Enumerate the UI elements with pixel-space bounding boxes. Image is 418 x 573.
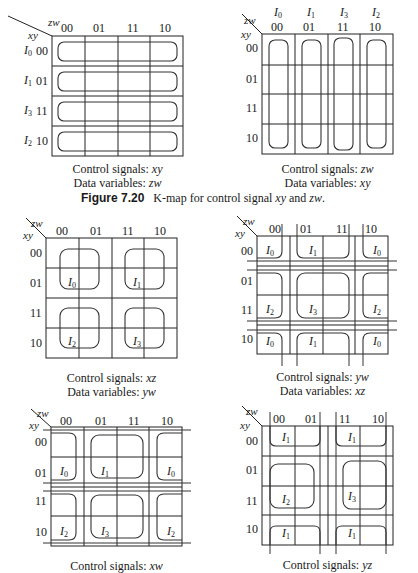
input-label-I1: I1 bbox=[307, 6, 315, 20]
col-var-label: zw bbox=[31, 218, 43, 229]
col-var-label: zw bbox=[243, 216, 255, 227]
input-label-I0: I0 bbox=[373, 335, 381, 349]
input-label-I1: I1 bbox=[101, 465, 109, 479]
row-header: 11 bbox=[246, 495, 258, 507]
input-label-I2: I2 bbox=[373, 303, 381, 317]
data-variables-caption: Data variables: xy bbox=[262, 176, 393, 191]
col-header: 01 bbox=[303, 21, 315, 33]
col-header: 10 bbox=[369, 21, 381, 33]
data-variables-caption: Data variables: zw bbox=[52, 176, 183, 191]
input-label-I3: I3 bbox=[133, 335, 141, 349]
row-header: 00 bbox=[35, 436, 47, 448]
input-label-I3: I3 bbox=[24, 104, 32, 118]
col-var-label: zw bbox=[37, 408, 49, 419]
row-header: 11 bbox=[36, 105, 48, 117]
row-header: 00 bbox=[30, 247, 42, 259]
row-header: 00 bbox=[36, 45, 48, 57]
col-header: 11 bbox=[128, 415, 140, 427]
data-variables-caption: Data variables: xz bbox=[257, 384, 388, 399]
input-label-I1: I1 bbox=[348, 527, 356, 541]
input-label-I0: I0 bbox=[68, 276, 76, 290]
row-var-label: xy bbox=[240, 420, 250, 431]
figure-caption: Figure 7.20 K-map for control signal xy … bbox=[81, 191, 325, 206]
col-header: 00 bbox=[60, 415, 72, 427]
row-header: 10 bbox=[241, 333, 253, 345]
input-label-I0: I0 bbox=[24, 44, 32, 58]
col-header: 00 bbox=[271, 21, 283, 33]
input-label-I2: I2 bbox=[24, 134, 32, 148]
col-header: 11 bbox=[336, 223, 348, 235]
control-signals-caption: Control signals: zw bbox=[262, 162, 393, 177]
control-signals-caption: Control signals: xw bbox=[51, 559, 182, 573]
input-label-I1: I1 bbox=[282, 431, 290, 445]
col-header: 11 bbox=[337, 21, 349, 33]
row-header: 11 bbox=[35, 495, 47, 507]
col-header: 10 bbox=[161, 415, 173, 427]
input-label-I1: I1 bbox=[24, 74, 32, 88]
row-var-label: xy bbox=[235, 228, 245, 239]
input-label-I0: I0 bbox=[274, 6, 282, 20]
input-label-I0: I0 bbox=[60, 465, 68, 479]
input-label-I1: I1 bbox=[309, 335, 317, 349]
col-header: 01 bbox=[93, 22, 105, 34]
kmap-grid bbox=[46, 238, 177, 358]
row-header: 11 bbox=[241, 304, 253, 316]
row-header: 01 bbox=[246, 73, 258, 85]
row-var-label: xy bbox=[241, 29, 251, 40]
col-header: 11 bbox=[339, 413, 351, 425]
kmap-grid bbox=[51, 427, 182, 547]
col-header: 01 bbox=[300, 223, 312, 235]
input-label-I0: I0 bbox=[373, 244, 381, 258]
control-signals-caption: Control signals: yz bbox=[262, 558, 393, 573]
row-header: 00 bbox=[246, 435, 258, 447]
col-header: 01 bbox=[95, 415, 107, 427]
input-label-I0: I0 bbox=[167, 465, 175, 479]
row-header: 01 bbox=[35, 467, 47, 479]
col-header: 00 bbox=[61, 22, 73, 34]
col-header: 01 bbox=[305, 413, 317, 425]
input-label-I2: I2 bbox=[60, 525, 68, 539]
col-header: 10 bbox=[159, 22, 171, 34]
row-var-label: xy bbox=[28, 30, 38, 41]
input-label-I1: I1 bbox=[348, 431, 356, 445]
row-header: 01 bbox=[241, 275, 253, 287]
control-signals-caption: Control signals: xy bbox=[52, 162, 183, 177]
kmap-grid bbox=[262, 34, 393, 154]
col-header: 11 bbox=[122, 225, 134, 237]
input-label-I2: I2 bbox=[372, 6, 380, 20]
kmap-grid bbox=[257, 236, 388, 356]
row-header: 10 bbox=[30, 337, 42, 349]
row-header: 01 bbox=[30, 277, 42, 289]
col-var-label: zw bbox=[244, 15, 256, 26]
kmap-grid bbox=[52, 36, 183, 156]
col-header: 10 bbox=[372, 413, 384, 425]
col-header: 00 bbox=[269, 223, 281, 235]
input-label-I3: I3 bbox=[348, 490, 356, 504]
row-var-label: xy bbox=[29, 420, 39, 431]
figure-number: Figure 7.20 bbox=[81, 191, 144, 205]
control-signals-caption: Control signals: yw bbox=[257, 370, 388, 385]
input-label-I0: I0 bbox=[266, 244, 274, 258]
col-var-label: zw bbox=[246, 406, 258, 417]
row-header: 00 bbox=[241, 245, 253, 257]
col-var-label: zw bbox=[48, 17, 60, 28]
col-header: 10 bbox=[154, 225, 166, 237]
input-label-I2: I2 bbox=[282, 493, 290, 507]
col-header: 00 bbox=[56, 225, 68, 237]
row-header: 01 bbox=[246, 464, 258, 476]
row-header: 11 bbox=[246, 102, 258, 114]
row-header: 11 bbox=[30, 307, 42, 319]
row-header: 00 bbox=[246, 42, 258, 54]
input-label-I3: I3 bbox=[340, 6, 348, 20]
input-label-I3: I3 bbox=[101, 525, 109, 539]
row-header: 10 bbox=[36, 135, 48, 147]
input-label-I1: I1 bbox=[309, 244, 317, 258]
row-header: 10 bbox=[246, 523, 258, 535]
input-label-I2: I2 bbox=[266, 303, 274, 317]
input-label-I2: I2 bbox=[167, 525, 175, 539]
input-label-I1: I1 bbox=[133, 276, 141, 290]
row-header: 01 bbox=[36, 75, 48, 87]
col-header: 10 bbox=[365, 223, 377, 235]
col-header: 11 bbox=[127, 22, 139, 34]
col-header: 01 bbox=[90, 225, 102, 237]
